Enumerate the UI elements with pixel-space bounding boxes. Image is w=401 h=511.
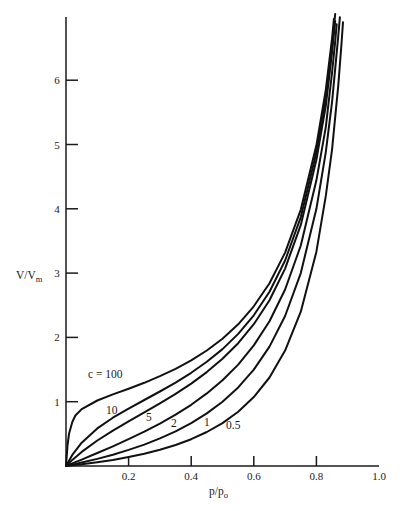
x-axis-label: p/po — [209, 485, 228, 500]
curve-label: c = 100 — [88, 368, 123, 380]
y-tick-label: 4 — [54, 203, 60, 215]
x-tick-label: 0.2 — [122, 470, 136, 482]
curve-label: 2 — [171, 417, 177, 429]
y-tick-label: 3 — [54, 267, 60, 279]
curve-label: 1 — [204, 416, 210, 428]
bet-isotherm-chart: 123456 0.20.40.60.81.0 c = 100105210.5 V… — [0, 0, 401, 511]
x-tick-label: 1.0 — [372, 470, 386, 482]
curve-label: 0.5 — [226, 419, 241, 431]
isotherm-curves — [66, 14, 343, 466]
x-ticks: 0.20.40.60.81.0 — [122, 456, 387, 482]
y-tick-label: 1 — [54, 396, 60, 408]
y-axis-label: V/Vm — [16, 269, 43, 284]
x-tick-label: 0.8 — [310, 470, 324, 482]
y-tick-label: 5 — [54, 139, 60, 151]
isotherm-curve — [66, 24, 337, 466]
isotherm-curve — [66, 17, 340, 466]
curve-label: 5 — [146, 411, 152, 423]
curve-label: 10 — [106, 404, 118, 416]
y-tick-label: 6 — [54, 74, 60, 86]
isotherm-curve — [66, 21, 335, 466]
x-tick-label: 0.6 — [247, 470, 261, 482]
x-tick-label: 0.4 — [184, 470, 198, 482]
y-tick-label: 2 — [54, 331, 60, 343]
